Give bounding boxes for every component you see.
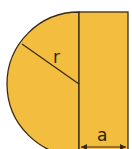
width-label: a xyxy=(97,125,107,145)
geometry-diagram: r a xyxy=(0,0,132,149)
radius-label: r xyxy=(53,47,60,67)
semicircle-region xyxy=(7,12,79,149)
